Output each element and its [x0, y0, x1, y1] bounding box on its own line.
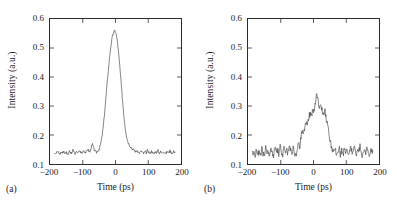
panel-a-y-tick-1: 0.2	[33, 131, 44, 140]
panel-a-y-tick-3: 0.4	[33, 72, 44, 81]
panel-b-y-tick-2: 0.3	[231, 102, 242, 111]
panel-b: Intensity (a.u.) 0.10.20.30.40.50.6 −200…	[198, 0, 396, 205]
panel-a-x-tick-4: 200	[175, 167, 189, 177]
panel-b-y-tick-3: 0.4	[231, 72, 242, 81]
panel-a-y-tick-2: 0.3	[33, 102, 44, 111]
panel-b-tick-marks	[248, 19, 379, 164]
panel-b-x-tick-2: 0	[311, 167, 316, 177]
panel-a-tag: (a)	[6, 184, 17, 194]
panel-a-x-tick-1: −100	[73, 167, 92, 177]
panel-a-trace-svg	[50, 19, 181, 164]
panel-b-y-tick-5: 0.6	[231, 14, 242, 23]
panel-b-x-tick-1: −100	[271, 167, 290, 177]
panel-b-x-axis-label: Time (ps)	[247, 182, 380, 192]
panel-b-x-tick-labels: −200−1000100200	[247, 167, 380, 179]
panel-b-y-tick-labels: 0.10.20.30.40.50.6	[216, 12, 244, 165]
panel-b-y-axis-label-text: Intensity (a.u.)	[205, 51, 215, 108]
panel-a-data-line	[55, 30, 176, 155]
panel-a-tick-marks	[50, 19, 181, 164]
panel-b-plot-area	[247, 18, 380, 165]
panel-b-trace-svg	[248, 19, 379, 164]
panel-b-tag: (b)	[204, 184, 215, 194]
panel-a-x-tick-2: 0	[113, 167, 118, 177]
panel-a-x-axis-label: Time (ps)	[49, 182, 182, 192]
panel-a-plot-area	[49, 18, 182, 165]
panel-b-y-tick-4: 0.5	[231, 43, 242, 52]
panel-a: Intensity (a.u.) 0.10.20.30.40.50.6 −200…	[0, 0, 198, 205]
panel-a-y-tick-4: 0.5	[33, 43, 44, 52]
panel-b-x-tick-4: 200	[373, 167, 387, 177]
panel-a-y-tick-labels: 0.10.20.30.40.50.6	[18, 12, 46, 165]
panel-a-x-tick-3: 100	[142, 167, 156, 177]
panel-b-y-tick-1: 0.2	[231, 131, 242, 140]
panel-b-x-tick-3: 100	[340, 167, 354, 177]
panel-a-x-tick-0: −200	[40, 167, 59, 177]
figure-container: Intensity (a.u.) 0.10.20.30.40.50.6 −200…	[0, 0, 397, 205]
panel-a-y-tick-5: 0.6	[33, 14, 44, 23]
panel-b-data-line	[253, 94, 374, 158]
panel-a-x-tick-labels: −200−1000100200	[49, 167, 182, 179]
panel-a-y-axis-label-text: Intensity (a.u.)	[7, 51, 17, 108]
panel-b-x-tick-0: −200	[238, 167, 257, 177]
